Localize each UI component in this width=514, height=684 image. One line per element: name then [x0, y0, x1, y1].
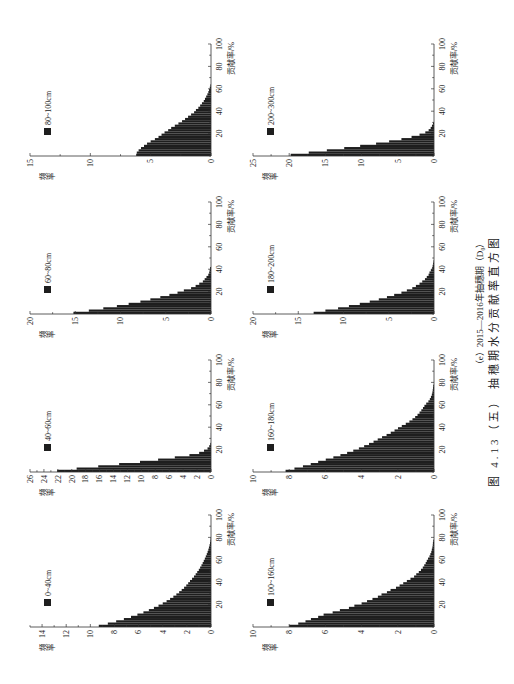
legend-label: 160~180cm	[267, 402, 276, 441]
y-tick-label: 12	[62, 630, 71, 638]
histogram-bar	[140, 461, 211, 463]
histogram-bar	[206, 96, 211, 98]
x-tick-label: 20	[215, 601, 224, 609]
x-tick-label: 100	[215, 38, 224, 50]
histogram-bar	[158, 459, 211, 461]
histogram-bar	[188, 582, 211, 584]
x-axis-title: 贡献率/%	[226, 358, 236, 391]
histogram-bar	[387, 434, 434, 436]
histogram-bar	[162, 134, 211, 136]
histogram-panel: 2040608010005101520频率贡献率/%180~200cm	[249, 196, 459, 340]
histogram-bar	[184, 587, 211, 589]
legend-swatch	[267, 286, 274, 293]
x-tick-label: 100	[215, 509, 224, 521]
histogram-bar	[429, 129, 434, 131]
y-tick-label: 20	[285, 159, 294, 167]
histogram-bar	[429, 271, 434, 273]
x-axis-title: 贡献率/%	[449, 200, 459, 233]
histogram-bar	[378, 438, 434, 440]
histogram-bar	[199, 452, 211, 454]
histogram-bar	[185, 118, 211, 120]
histogram-bar	[197, 571, 211, 573]
legend-swatch	[267, 444, 274, 451]
histogram-bar	[327, 149, 434, 151]
x-axis-title: 贡献率/%	[449, 42, 459, 75]
bar-series	[57, 443, 211, 472]
y-tick-label: 24	[40, 475, 49, 483]
histogram-bar	[203, 562, 211, 564]
x-tick-label: 80	[215, 533, 224, 541]
y-tick-label: 5	[162, 317, 171, 321]
histogram-bar	[401, 292, 434, 294]
histogram-bar	[430, 398, 434, 400]
histogram-bar	[191, 113, 211, 115]
x-tick-label: 100	[438, 196, 447, 208]
x-tick-label: 40	[438, 578, 447, 586]
histogram-bar	[182, 589, 211, 591]
histogram-bar	[178, 292, 211, 294]
x-tick-label: 60	[438, 401, 447, 409]
histogram-bar	[395, 429, 434, 431]
histogram-bar	[188, 116, 211, 118]
histogram-panel: 204060801000246810频率贡献率/%100~160cm	[249, 509, 459, 653]
histogram-bar	[131, 616, 211, 618]
histogram-grid: 2040608010002468101214频率贡献率/%0~40cm20406…	[26, 38, 459, 653]
histogram-bar	[347, 452, 434, 454]
histogram-bar	[402, 425, 434, 427]
histogram-bar	[382, 436, 434, 438]
histogram-bar	[159, 136, 211, 138]
x-tick-label: 20	[438, 288, 447, 296]
histogram-bar	[430, 553, 434, 555]
y-tick-label: 18	[81, 475, 90, 483]
x-tick-label: 40	[215, 423, 224, 431]
y-tick-label: 20	[68, 475, 77, 483]
histogram-figure: 2040608010002468101214频率贡献率/%0~40cm20406…	[0, 0, 514, 684]
y-tick-label: 10	[249, 475, 258, 483]
y-tick-label: 4	[179, 475, 188, 479]
histogram-bar	[374, 441, 434, 443]
x-axis-title: 贡献率/%	[226, 200, 236, 233]
y-tick-label: 10	[116, 317, 125, 325]
y-tick-label: 6	[134, 630, 143, 634]
x-axis-title: 贡献率/%	[449, 358, 459, 391]
histogram-bar	[155, 138, 211, 140]
y-tick-label: 10	[86, 630, 95, 638]
histogram-bar	[309, 152, 434, 154]
histogram-bar	[344, 147, 434, 149]
histogram-bar	[198, 107, 211, 109]
x-tick-label: 60	[438, 85, 447, 93]
histogram-bar	[129, 303, 211, 305]
y-tick-label: 12	[123, 475, 132, 483]
x-tick-label: 80	[438, 533, 447, 541]
x-tick-label: 40	[438, 423, 447, 431]
histogram-bar	[137, 152, 211, 154]
histogram-bar	[141, 147, 211, 149]
histogram-bar	[167, 600, 211, 602]
legend-label: 40~60cm	[44, 410, 53, 441]
legend-label: 200~300cm	[267, 86, 276, 125]
histogram-bar	[412, 136, 434, 138]
y-tick-label: 0	[207, 475, 216, 479]
histogram-bar	[140, 301, 211, 303]
histogram-bar	[194, 575, 211, 577]
histogram-bar	[419, 571, 434, 573]
x-tick-label: 60	[215, 243, 224, 251]
histogram-bar	[427, 276, 434, 278]
histogram-bar	[387, 591, 434, 593]
histogram-bar	[414, 575, 434, 577]
y-tick-label: 0	[207, 159, 216, 163]
histogram-bar	[303, 465, 434, 467]
y-tick-label: 10	[137, 475, 146, 483]
y-axis-title: 频率	[38, 644, 56, 653]
histogram-bar	[423, 567, 434, 569]
y-tick-label: 20	[249, 317, 258, 325]
y-tick-label: 0	[430, 317, 439, 321]
x-tick-label: 20	[438, 130, 447, 138]
x-axis-title: 贡献率/%	[226, 513, 236, 546]
histogram-bar	[168, 129, 211, 131]
histogram-bar	[364, 445, 434, 447]
x-tick-label: 80	[215, 62, 224, 70]
y-tick-label: 6	[165, 475, 174, 479]
histogram-bar	[151, 140, 211, 142]
histogram-bar	[396, 587, 434, 589]
